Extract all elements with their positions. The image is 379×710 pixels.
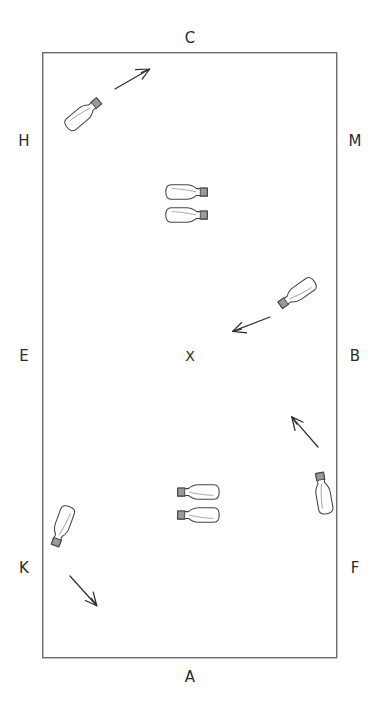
label-h: H xyxy=(12,134,36,149)
label-a: A xyxy=(178,670,202,685)
label-e: E xyxy=(12,349,36,364)
label-b: B xyxy=(343,349,367,364)
center-marker-x: X xyxy=(180,349,200,363)
label-k: K xyxy=(12,561,36,576)
diagram-canvas: C H M E B K F A X xyxy=(0,0,379,710)
label-f: F xyxy=(343,561,367,576)
label-m: M xyxy=(343,134,367,149)
label-c: C xyxy=(178,31,202,46)
